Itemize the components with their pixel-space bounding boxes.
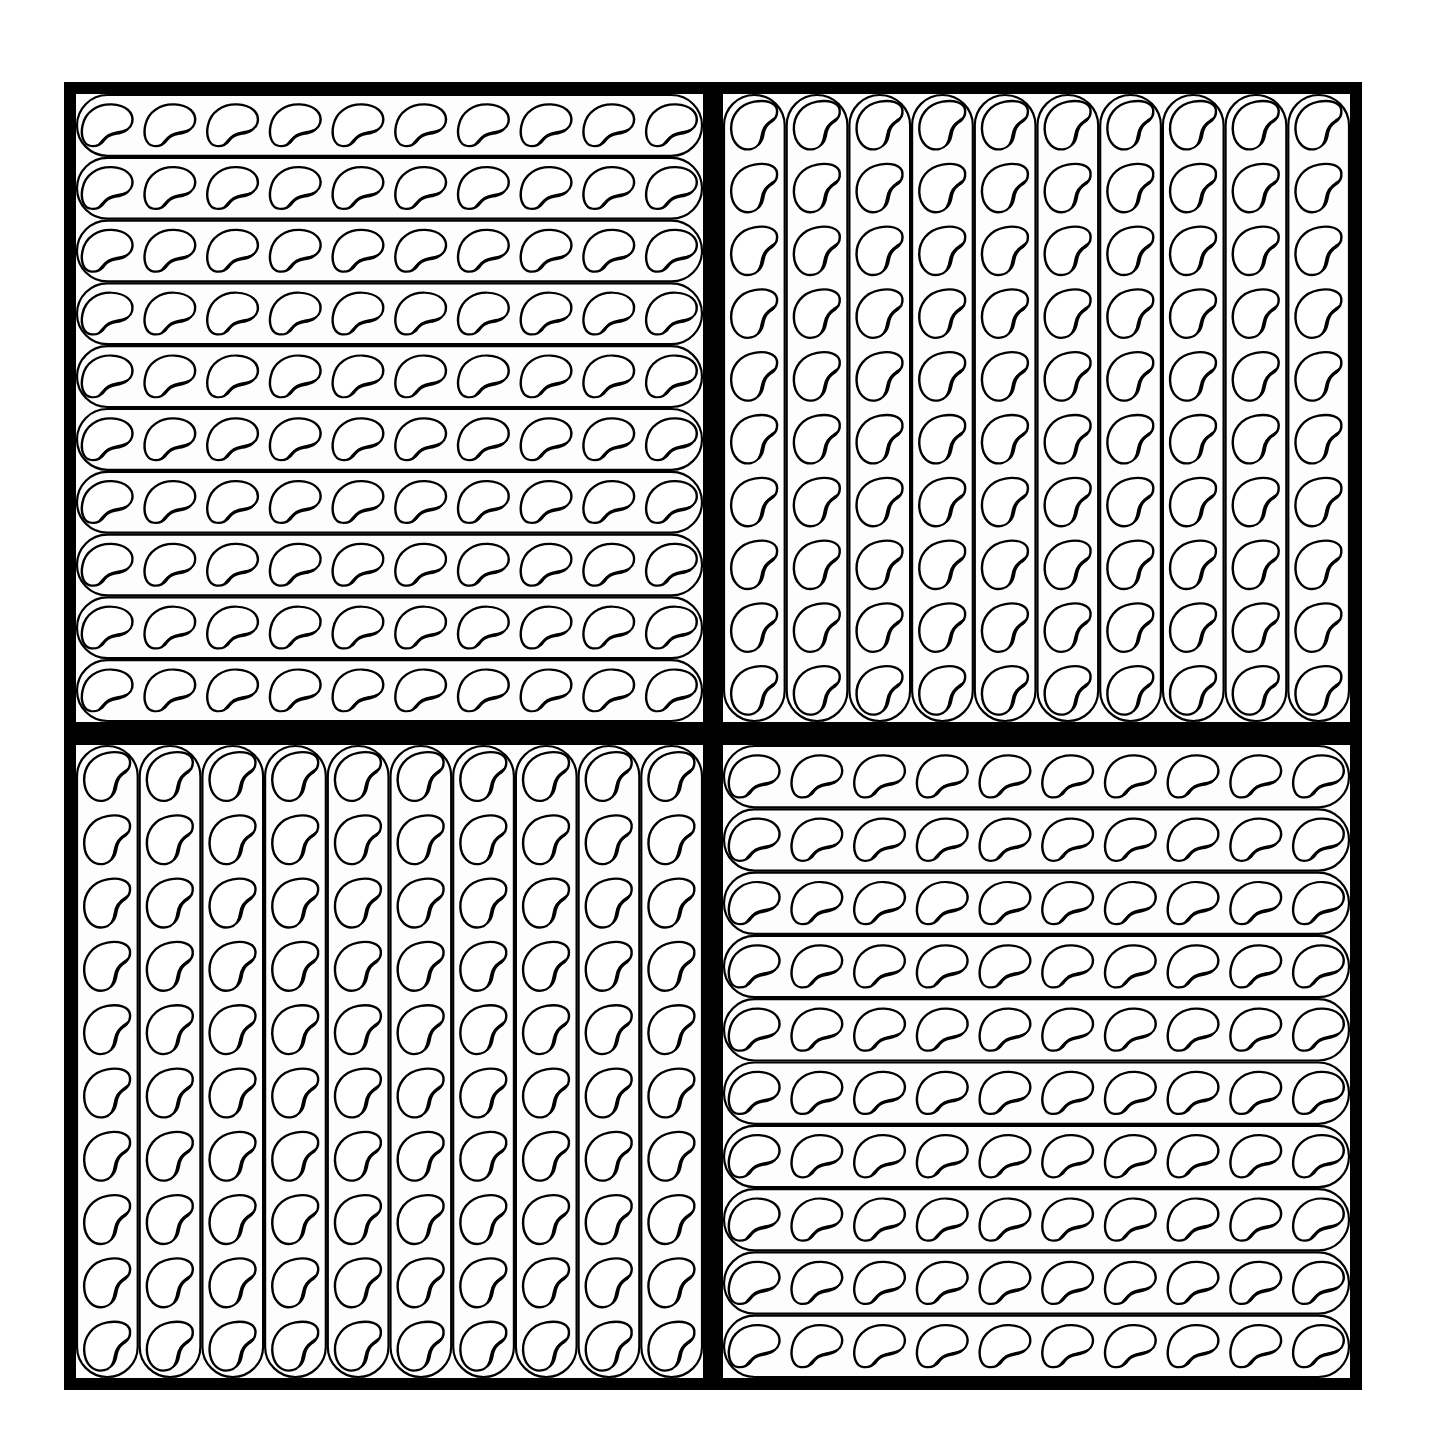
panel-top-right — [723, 94, 1350, 722]
diagram-canvas — [0, 0, 1433, 1449]
bean-stick-diagram: Bean sticks: four flats of 100 beans — [0, 0, 1433, 1449]
panel-bottom-left — [76, 745, 703, 1378]
panel-bottom-right — [723, 745, 1350, 1378]
horizontal-divider — [64, 722, 1362, 745]
panel-top-left — [76, 94, 703, 722]
